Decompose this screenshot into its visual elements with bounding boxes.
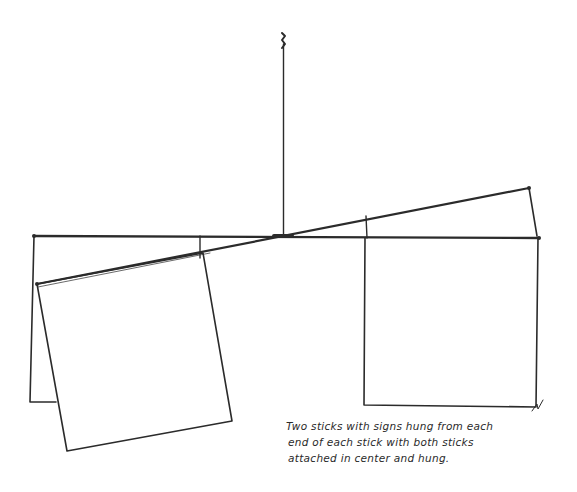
caption-line-1: Two sticks with signs hung from each [286,418,566,434]
right-sign [364,238,538,407]
hook-knot [282,33,285,48]
caption-text: Two sticks with signs hung from each end… [286,418,566,466]
caption-line-3: attached in center and hung. [286,450,566,466]
caption-line-2: end of each stick with both sticks [286,434,566,450]
left-front-sign [37,253,232,451]
squiggle-mark [532,400,543,411]
